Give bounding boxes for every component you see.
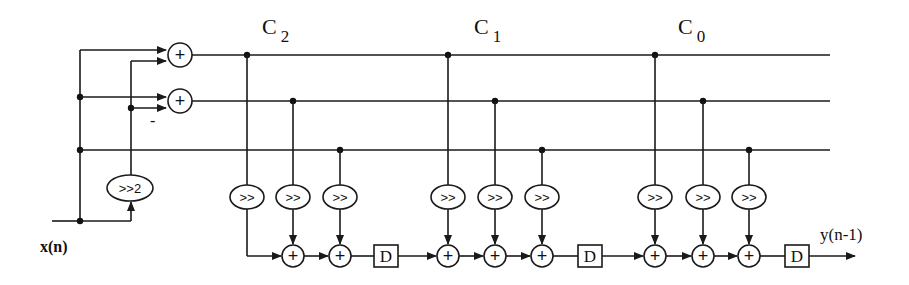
shift-label: >> <box>534 190 549 205</box>
shift-label: >> <box>440 190 455 205</box>
preshift-label: >>2 <box>119 181 141 196</box>
minus-sign: - <box>150 112 155 129</box>
shift-label: >> <box>332 190 347 205</box>
adder-symbol: + <box>650 246 661 266</box>
junction-dot <box>77 218 83 224</box>
input-section: - >>2 x(n) <box>40 50 166 256</box>
coef-c2-label: C2 <box>262 14 289 46</box>
shift-label: >> <box>741 190 756 205</box>
delay-label: D <box>791 247 803 266</box>
tap-group-c2: >> >> >> + + D <box>230 52 436 267</box>
input-label: x(n) <box>40 238 68 256</box>
adder-symbol: + <box>490 246 501 266</box>
fir-filter-diagram: - >>2 x(n) + + C2 C1 C0 >> >> >> <box>0 0 909 285</box>
adder-symbol: + <box>443 246 454 266</box>
adder-symbol: + <box>175 91 186 111</box>
coef-c0-label: C0 <box>678 14 705 46</box>
delay-label: D <box>380 247 392 266</box>
adder-symbol: + <box>698 246 709 266</box>
adder-symbol: + <box>288 246 299 266</box>
adder-symbol: + <box>175 45 186 65</box>
delay-label: D <box>584 247 596 266</box>
shift-label: >> <box>285 190 300 205</box>
shift-label: >> <box>647 190 662 205</box>
tap-group-c1: >> >> >> + + + D <box>431 52 643 267</box>
coefficient-labels: C2 C1 C0 <box>262 14 705 46</box>
shift-label: >> <box>239 190 254 205</box>
adder-symbol: + <box>335 246 346 266</box>
pre-adders: + + <box>168 43 192 113</box>
adder-symbol: + <box>744 246 755 266</box>
shift-label: >> <box>695 190 710 205</box>
coef-c1-label: C1 <box>474 14 501 46</box>
output-label: y(n-1) <box>820 225 862 244</box>
shift-label: >> <box>487 190 502 205</box>
adder-symbol: + <box>537 246 548 266</box>
